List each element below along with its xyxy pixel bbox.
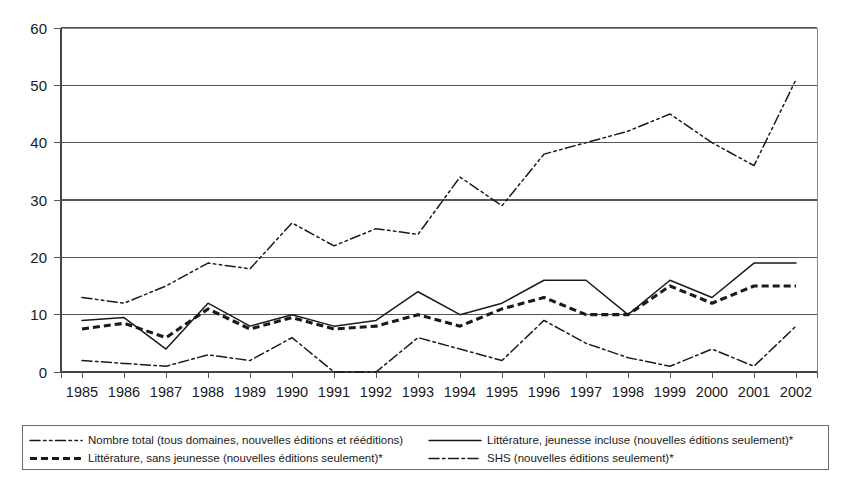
xtick-label: 1990 [276,384,308,400]
xtick-label: 1985 [66,384,98,400]
legend-label: SHS (nouvelles éditions seulement)* [487,452,674,464]
xtick-label: 1992 [360,384,392,400]
xtick-label: 1988 [192,384,224,400]
x-axis-labels: 1985198619871988198919901991199219931994… [66,384,812,400]
ytick-label: 40 [30,134,47,151]
xtick-label: 1997 [570,384,602,400]
x-tickmarks [61,372,817,378]
legend-entry-nombre-total[interactable]: Nombre total (tous domaines, nouvelles é… [30,434,403,446]
xtick-label: 2001 [738,384,770,400]
xtick-label: 1991 [318,384,350,400]
legend-entry-litterature-jeunesse-incluse[interactable]: Littérature, jeunesse incluse (nouvelles… [429,434,794,446]
chart-figure: 60 50 40 30 20 10 0 19851986198719881989… [0,0,855,483]
xtick-label: 2002 [780,384,812,400]
xtick-label: 1999 [654,384,686,400]
ytick-label: 20 [30,249,47,266]
ytick-label: 30 [30,192,47,209]
legend-entry-litterature-sans-jeunesse[interactable]: Littérature, sans jeunesse (nouvelles éd… [30,452,383,464]
xtick-label: 1986 [108,384,140,400]
chart-legend: Nombre total (tous domaines, nouvelles é… [22,425,828,469]
xtick-label: 1989 [234,384,266,400]
ytick-label: 60 [30,20,47,37]
ytick-label: 0 [39,364,47,381]
legend-entry-shs[interactable]: SHS (nouvelles éditions seulement)* [429,452,674,464]
legend-label: Littérature, sans jeunesse (nouvelles éd… [88,452,383,464]
xtick-label: 1996 [528,384,560,400]
xtick-label: 1998 [612,384,644,400]
legend-label: Nombre total (tous domaines, nouvelles é… [88,434,403,446]
xtick-label: 1987 [150,384,182,400]
line-chart: 60 50 40 30 20 10 0 19851986198719881989… [0,0,855,483]
xtick-label: 1993 [402,384,434,400]
ytick-label: 10 [30,306,47,323]
legend-label: Littérature, jeunesse incluse (nouvelles… [487,434,794,446]
xtick-label: 1995 [486,384,518,400]
xtick-label: 2000 [696,384,728,400]
y-axis-labels: 60 50 40 30 20 10 0 [30,20,47,381]
y-tickmarks [54,28,61,372]
ytick-label: 50 [30,77,47,94]
xtick-label: 1994 [444,384,476,400]
